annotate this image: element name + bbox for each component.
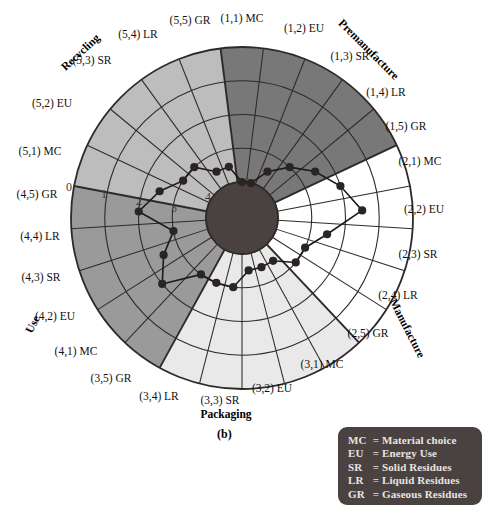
data-point	[169, 227, 177, 235]
data-point	[158, 280, 166, 288]
legend-equals: =	[370, 488, 382, 501]
legend-equals: =	[370, 474, 382, 487]
legend-abbr: MC	[348, 434, 370, 447]
legend-description: Material choice	[382, 434, 457, 447]
figure-caption: (b)	[217, 427, 232, 442]
data-point	[225, 163, 233, 171]
cell-label-0: (1,1) MC	[221, 12, 264, 25]
legend-panel: MC = Material choice EU = Energy Use SR …	[338, 427, 482, 505]
data-point	[336, 182, 344, 190]
cell-label-3: (1,4) LR	[366, 86, 406, 99]
cell-label-14: (3,5) GR	[91, 372, 132, 385]
legend-description: Liquid Residues	[382, 474, 460, 487]
legend-row: EU = Energy Use	[348, 447, 482, 460]
legend-abbr: EU	[348, 447, 370, 460]
data-point	[257, 263, 265, 271]
legend-row: SR = Solid Residues	[348, 461, 482, 474]
cell-label-17: (4,3) SR	[22, 271, 61, 284]
legend-equals: =	[370, 447, 382, 460]
cell-label-13: (3,4) LR	[139, 390, 179, 403]
data-point	[190, 163, 198, 171]
cell-label-12: (3,3) SR	[201, 394, 240, 407]
cell-label-11: (3,2) EU	[252, 382, 293, 395]
legend-equals: =	[370, 461, 382, 474]
radial-tick-3: 3	[171, 201, 177, 215]
data-point	[247, 179, 255, 187]
radial-tick-1: 1	[101, 187, 107, 201]
data-point	[311, 167, 319, 175]
data-point	[358, 206, 366, 214]
data-point	[301, 244, 309, 252]
radial-tick-4: 4	[205, 190, 211, 204]
cell-label-20: (5,1) MC	[19, 145, 62, 158]
legend-row: GR = Gaseous Residues	[348, 488, 482, 501]
cell-label-15: (4,1) MC	[55, 345, 98, 358]
legend-description: Gaseous Residues	[382, 488, 467, 501]
data-point	[238, 178, 246, 186]
cell-label-21: (5,2) EU	[32, 97, 73, 110]
data-point	[229, 283, 237, 291]
data-point	[263, 168, 271, 176]
legend-abbr: SR	[348, 461, 370, 474]
legend-description: Solid Residues	[382, 461, 452, 474]
data-point	[156, 187, 164, 195]
data-point	[160, 251, 168, 259]
legend-row: LR = Liquid Residues	[348, 474, 482, 487]
data-point	[323, 230, 331, 238]
legend-description: Energy Use	[382, 447, 437, 460]
data-point	[245, 266, 253, 274]
data-point	[212, 168, 220, 176]
stage-label-recycling: Recycling	[59, 31, 103, 73]
data-point	[179, 177, 187, 185]
data-point	[269, 257, 277, 265]
radial-tick-2: 2	[136, 194, 142, 208]
data-point	[286, 163, 294, 171]
data-point	[292, 258, 300, 266]
cell-label-4: (1,5) GR	[386, 120, 427, 133]
radial-tick-0: 0	[66, 180, 72, 194]
stage-label-packaging: Packaging	[200, 408, 251, 421]
legend-abbr: GR	[348, 488, 370, 501]
data-point	[197, 270, 205, 278]
cell-label-6: (2,2) EU	[404, 203, 445, 216]
data-point	[135, 207, 143, 215]
cell-label-7: (2,3) SR	[399, 248, 438, 261]
data-point	[212, 279, 220, 287]
legend-equals: =	[370, 434, 382, 447]
legend-abbr: LR	[348, 474, 370, 487]
cell-label-5: (2,1) MC	[399, 155, 442, 168]
stage-label-manufacture: Manufacture	[388, 297, 428, 360]
cell-label-18: (4,4) LR	[20, 230, 60, 243]
cell-label-1: (1,2) EU	[284, 22, 325, 35]
center-hub	[206, 182, 278, 254]
legend-row: MC = Material choice	[348, 434, 482, 447]
cell-label-19: (4,5) GR	[17, 188, 58, 201]
cell-label-16: (4,2) EU	[35, 310, 76, 323]
cell-label-24: (5,5) GR	[170, 14, 211, 27]
erpa-radar-chart: 01234 (1,1) MC(1,2) EU(1,3) SR(1,4) LR(1…	[0, 0, 492, 521]
cell-label-10: (3,1) MC	[301, 358, 344, 371]
cell-label-23: (5,4) LR	[118, 28, 158, 41]
cell-label-9: (2,5) GR	[348, 327, 389, 340]
